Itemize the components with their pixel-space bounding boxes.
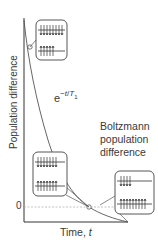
exp-sub: 1 <box>74 94 77 100</box>
spin-panel-initial <box>36 20 67 60</box>
y-axis-label: Population difference <box>8 42 20 162</box>
connector-eq-a <box>100 196 115 205</box>
x-axis-label-var: t <box>89 226 92 238</box>
spin-panel-equilibrium <box>115 171 154 214</box>
spin-panel-intermediate <box>33 152 67 196</box>
equation-exponent: −t/T1 <box>60 89 77 98</box>
connector-initial <box>30 40 36 47</box>
decay-equation: e−t/T1 <box>54 89 78 104</box>
boltzmann-annotation: Boltzmann population difference <box>100 120 158 159</box>
x-axis-label: Time, t <box>60 226 92 238</box>
zero-tick-label: 0 <box>16 200 22 212</box>
x-axis-label-text: Time, <box>60 226 89 238</box>
